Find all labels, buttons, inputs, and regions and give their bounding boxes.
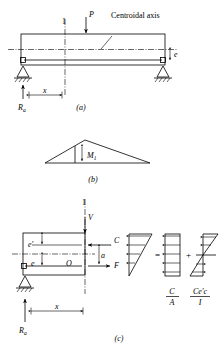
support-hatch-left-c	[17, 288, 32, 292]
e-prime-label-c: e'	[28, 240, 34, 249]
panel-label-b: (b)	[88, 175, 98, 184]
term2-numerator-c: Ce'c	[193, 287, 208, 296]
moment-triangle-b	[45, 140, 150, 163]
plus-sign-c: +	[186, 250, 191, 260]
term-C-over-A-c: C A	[166, 287, 179, 307]
reaction-label-a: Ra	[17, 103, 26, 113]
figure-root: 1 P Centroidal axis e	[0, 0, 223, 350]
stress-diagram-uniform-c	[165, 234, 180, 276]
support-hatch-right-a	[155, 78, 170, 82]
force-label-c: F	[113, 261, 119, 270]
origin-label-c: O	[66, 259, 72, 268]
e-label-c: e	[31, 259, 35, 268]
panel-c-group: e' e O 1 V C F a	[12, 198, 218, 343]
term1-numerator-c: C	[169, 287, 175, 296]
engineering-figure-canvas: 1 P Centroidal axis e	[0, 0, 223, 350]
support-hatch-left-a	[15, 78, 30, 82]
moment-label-b: M1	[86, 151, 97, 161]
stress-diagram-bending-c	[190, 234, 218, 276]
centroidal-axis-label-a: Centroidal axis	[111, 11, 160, 20]
panel-b-group: M1 (b)	[45, 140, 150, 184]
centroidal-axis-leader-a	[101, 36, 112, 49]
x-label-a: x	[42, 86, 47, 95]
stress-bending-lower-triangle-c	[190, 255, 203, 276]
panel-label-a: (a)	[76, 103, 86, 112]
lever-arm-label-c: a	[101, 251, 105, 260]
stress-combined-outline-c	[129, 234, 152, 276]
term2-denominator-c: I	[198, 298, 202, 307]
support-pin-left-c	[19, 276, 31, 287]
equals-sign-c: =	[155, 250, 160, 260]
support-pin-left-a	[17, 66, 29, 77]
eccentricity-label-a: e	[174, 50, 178, 59]
section-marker-label-c: 1	[82, 198, 86, 207]
load-label-a: P	[88, 10, 94, 19]
term1-denominator-c: A	[169, 298, 175, 307]
reaction-label-c: Ra	[18, 326, 27, 336]
compression-label-c: C	[114, 236, 120, 245]
shear-label-c: V	[88, 213, 94, 222]
support-roller-right-a	[157, 66, 169, 77]
stress-diagram-combined-c	[129, 234, 152, 276]
term-Cec-over-I-c: Ce'c I	[190, 287, 210, 307]
x-label-c: x	[54, 302, 59, 311]
panel-label-c: (c)	[115, 334, 124, 343]
panel-a-group: 1 P Centroidal axis e	[8, 10, 178, 113]
section-marker-label-a: 1	[62, 17, 66, 26]
stress-uniform-outline-c	[165, 234, 180, 276]
